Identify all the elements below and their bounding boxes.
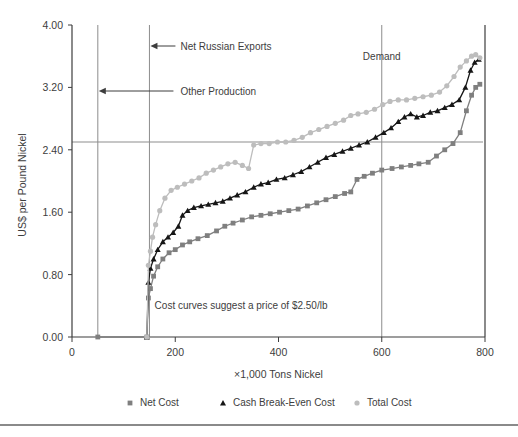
series-2-marker-38 <box>404 97 409 102</box>
x-tick-label-0: 0 <box>69 346 75 358</box>
series-2-marker-39 <box>412 96 417 101</box>
series-2-marker-30 <box>341 118 346 123</box>
series-2-marker-16 <box>233 160 238 165</box>
chart-figure: 0.000.801.602.403.204.000200400600800US$… <box>0 0 518 437</box>
series-0-marker-6 <box>160 257 165 262</box>
series-0-marker-13 <box>214 229 219 234</box>
series-0-marker-36 <box>417 161 422 166</box>
series-2-marker-19 <box>251 143 256 148</box>
series-0-marker-20 <box>277 210 282 215</box>
series-2-marker-11 <box>196 175 201 180</box>
series-0-marker-5 <box>155 264 160 269</box>
series-2-marker-41 <box>429 93 434 98</box>
series-0-marker-31 <box>370 171 375 176</box>
series-0-marker-38 <box>434 154 439 159</box>
y-tick-label-4: 3.20 <box>43 81 64 93</box>
series-2-marker-40 <box>420 94 425 99</box>
series-0-marker-21 <box>286 208 291 213</box>
series-0-marker-9 <box>180 243 185 248</box>
series-0-marker-15 <box>231 221 236 226</box>
demand-label: Demand <box>363 51 401 62</box>
series-2-marker-48 <box>473 52 478 57</box>
series-2-marker-42 <box>437 89 442 94</box>
legend-label-2: Total Cost <box>367 397 412 408</box>
legend-marker-0 <box>128 401 133 406</box>
series-0-marker-16 <box>240 218 245 223</box>
series-2-marker-37 <box>396 97 401 102</box>
series-2-marker-24 <box>291 138 296 143</box>
series-2-marker-46 <box>464 58 469 63</box>
series-0-marker-17 <box>249 214 254 219</box>
series-0-marker-14 <box>222 224 227 229</box>
series-2-marker-31 <box>348 113 353 118</box>
x-tick-label-1: 200 <box>166 346 184 358</box>
series-2-marker-36 <box>387 99 392 104</box>
series-2-marker-9 <box>182 182 187 187</box>
series-2-marker-3 <box>150 235 155 240</box>
y-tick-label-2: 1.60 <box>43 206 64 218</box>
series-2-marker-0 <box>144 334 149 339</box>
legend-marker-2 <box>354 400 359 405</box>
series-2-marker-14 <box>218 164 223 169</box>
y-tick-label-1: 0.80 <box>43 269 64 281</box>
series-2-marker-1 <box>146 263 151 268</box>
series-2-marker-21 <box>267 141 272 146</box>
series-2-marker-23 <box>283 139 288 144</box>
series-2-marker-25 <box>300 135 305 140</box>
legend-label-0: Net Cost <box>140 397 179 408</box>
y-tick-label-5: 4.00 <box>43 19 64 31</box>
series-2-marker-18 <box>246 166 251 171</box>
x-axis-title: ×1,000 Tons Nickel <box>234 368 323 380</box>
series-0-marker-22 <box>296 207 301 212</box>
series-0-marker-37 <box>426 160 431 165</box>
series-0-marker-35 <box>408 163 413 168</box>
legend-label-1: Cash Break-Even Cost <box>233 397 335 408</box>
series-2-marker-5 <box>157 208 162 213</box>
cost-curve-chart: 0.000.801.602.403.204.000200400600800US$… <box>0 0 518 437</box>
x-tick-label-3: 600 <box>373 346 391 358</box>
series-0-marker-12 <box>205 233 210 238</box>
x-tick-label-2: 400 <box>270 346 288 358</box>
series-2-marker-22 <box>275 139 280 144</box>
series-0-marker-40 <box>451 141 456 146</box>
series-0-marker-0 <box>95 335 100 340</box>
series-0-marker-23 <box>305 204 310 209</box>
series-0-marker-44 <box>473 85 478 90</box>
series-0-marker-8 <box>173 247 178 252</box>
series-2-marker-12 <box>204 171 209 176</box>
series-0-marker-41 <box>458 130 463 135</box>
series-2-marker-13 <box>211 167 216 172</box>
series-0-marker-39 <box>442 147 447 152</box>
y-axis-title: US$ per Pound Nickel <box>16 133 28 236</box>
series-2-marker-26 <box>308 130 313 135</box>
series-2-marker-35 <box>380 102 385 107</box>
x-tick-label-4: 800 <box>476 346 494 358</box>
series-2-marker-33 <box>364 110 369 115</box>
series-2-marker-49 <box>477 55 482 60</box>
series-0-marker-11 <box>196 236 201 241</box>
y-tick-label-3: 2.40 <box>43 144 64 156</box>
series-2-marker-34 <box>372 107 377 112</box>
series-0-marker-18 <box>259 213 264 218</box>
series-2-marker-15 <box>225 161 230 166</box>
series-2-marker-32 <box>355 111 360 116</box>
series-2-marker-29 <box>333 121 338 126</box>
series-0-marker-45 <box>477 82 482 87</box>
other-production-label: Other Production <box>180 86 256 97</box>
series-2-marker-2 <box>148 249 153 254</box>
series-0-marker-25 <box>324 197 329 202</box>
y-tick-label-0: 0.00 <box>43 331 64 343</box>
series-0-marker-28 <box>348 190 353 195</box>
series-0-marker-32 <box>379 168 384 173</box>
series-2-marker-10 <box>189 178 194 183</box>
series-0-marker-7 <box>167 250 172 255</box>
series-0-marker-29 <box>355 177 360 182</box>
series-2-marker-6 <box>162 196 167 201</box>
series-2-marker-28 <box>324 124 329 129</box>
series-0-marker-42 <box>464 108 469 113</box>
series-0-marker-30 <box>362 174 367 179</box>
series-0-marker-24 <box>314 200 319 205</box>
price-note-label: Cost curves suggest a price of $2.50/lb <box>155 300 328 311</box>
series-2-marker-7 <box>169 188 174 193</box>
footer-divider <box>0 424 518 426</box>
